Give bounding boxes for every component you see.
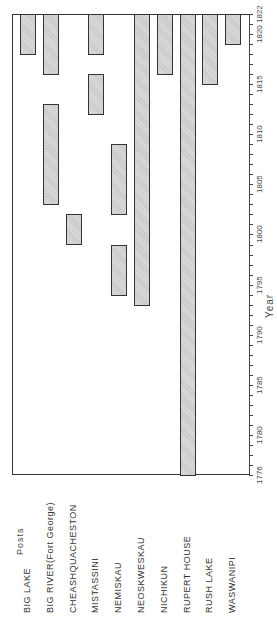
bar-cheashquacheston-0 bbox=[66, 214, 82, 245]
axis-tick bbox=[249, 285, 253, 286]
post-label: MISTASSINI bbox=[90, 558, 100, 613]
post-label: RUPERT HOUSE bbox=[182, 536, 192, 613]
post-label: NEMISKAU bbox=[113, 562, 123, 613]
axis-tick bbox=[249, 335, 253, 336]
bar-neoskweskau-0 bbox=[134, 14, 150, 306]
axis-title-posts: Posts bbox=[15, 527, 25, 555]
axis-tick bbox=[249, 224, 253, 225]
axis-tick bbox=[249, 114, 253, 115]
post-label: BIG LAKE bbox=[22, 568, 32, 613]
bar-mistassini-0 bbox=[88, 74, 104, 115]
axis-tick bbox=[249, 255, 253, 256]
bar-big-river-fort-george-1 bbox=[43, 14, 59, 75]
axis-tick bbox=[249, 315, 253, 316]
axis-tick bbox=[249, 295, 253, 296]
axis-tick bbox=[249, 265, 253, 266]
axis-tick bbox=[249, 375, 253, 376]
post-label: CHEASHQUACHESTON bbox=[68, 504, 78, 613]
axis-tick bbox=[249, 245, 253, 246]
bar-rupert-house-0 bbox=[180, 14, 196, 476]
axis-tick bbox=[249, 214, 253, 215]
bar-rush-lake-0 bbox=[202, 14, 218, 85]
axis-tick bbox=[249, 24, 253, 25]
tick-label: 1795 bbox=[255, 276, 264, 294]
axis-tick bbox=[249, 14, 253, 15]
axis-title-year: Year bbox=[264, 294, 275, 318]
bar-nemiskau-0 bbox=[111, 245, 127, 296]
axis-tick bbox=[249, 365, 253, 366]
post-label: NICHIKUN bbox=[159, 565, 169, 613]
bar-nichikun-0 bbox=[157, 14, 173, 75]
axis-tick bbox=[249, 54, 253, 55]
tick-label: 1776 bbox=[255, 466, 264, 484]
axis-tick bbox=[249, 154, 253, 155]
axis-tick bbox=[249, 204, 253, 205]
axis-tick bbox=[249, 465, 253, 466]
tick-label: 1815 bbox=[255, 75, 264, 93]
axis-tick bbox=[249, 415, 253, 416]
axis-tick bbox=[249, 104, 253, 105]
tick-label: 1780 bbox=[255, 426, 264, 444]
axis-tick bbox=[249, 144, 253, 145]
tick-label: 1822 bbox=[255, 5, 264, 23]
axis-tick bbox=[249, 425, 253, 426]
post-label: NEOSKWESKAU bbox=[136, 537, 146, 613]
axis-tick bbox=[249, 475, 253, 476]
axis-tick bbox=[249, 395, 253, 396]
axis-tick bbox=[249, 94, 253, 95]
axis-tick bbox=[249, 355, 253, 356]
axis-tick bbox=[249, 275, 253, 276]
tick-label: 1820 bbox=[255, 25, 264, 43]
bar-nemiskau-1 bbox=[111, 144, 127, 215]
bar-mistassini-1 bbox=[88, 14, 104, 55]
axis-tick bbox=[249, 234, 253, 235]
axis-tick bbox=[249, 134, 253, 135]
axis-tick bbox=[249, 345, 253, 346]
axis-tick bbox=[249, 435, 253, 436]
tick-label: 1805 bbox=[255, 176, 264, 194]
post-label: WASWANIPI bbox=[227, 557, 237, 613]
bar-big-lake-0 bbox=[20, 14, 36, 55]
post-timeline-chart: 1776178017851790179518001805181018151820… bbox=[0, 0, 277, 625]
axis-tick bbox=[249, 74, 253, 75]
axis-tick bbox=[249, 305, 253, 306]
axis-tick bbox=[249, 455, 253, 456]
axis-tick bbox=[249, 325, 253, 326]
tick-label: 1785 bbox=[255, 376, 264, 394]
axis-tick bbox=[249, 174, 253, 175]
tick-label: 1810 bbox=[255, 125, 264, 143]
axis-tick bbox=[249, 44, 253, 45]
axis-tick bbox=[249, 34, 253, 35]
axis-tick bbox=[249, 385, 253, 386]
axis-tick bbox=[249, 124, 253, 125]
axis-tick bbox=[249, 64, 253, 65]
bar-big-river-fort-george-0 bbox=[43, 104, 59, 205]
post-label: BIG RIVER(Fort George) bbox=[45, 502, 55, 613]
bar-waswanipi-0 bbox=[225, 14, 241, 45]
axis-tick bbox=[249, 194, 253, 195]
axis-tick bbox=[249, 445, 253, 446]
axis-tick bbox=[249, 405, 253, 406]
axis-tick bbox=[249, 164, 253, 165]
tick-label: 1790 bbox=[255, 326, 264, 344]
tick-label: 1800 bbox=[255, 226, 264, 244]
axis-tick bbox=[249, 84, 253, 85]
post-label: RUSH LAKE bbox=[204, 557, 214, 613]
axis-tick bbox=[249, 184, 253, 185]
